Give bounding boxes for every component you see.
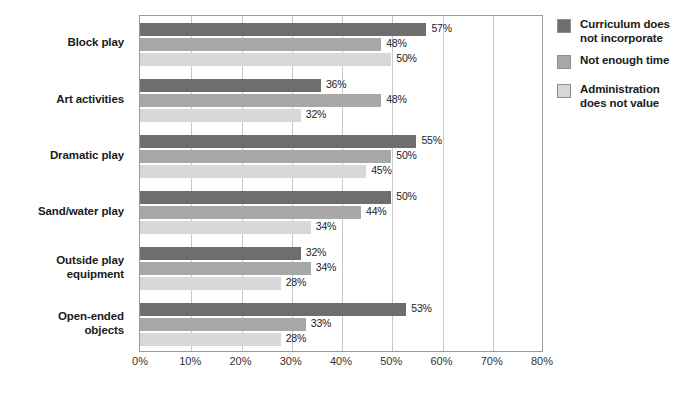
x-tick-label: 20% xyxy=(229,355,251,367)
bar-group: 53%33%28% xyxy=(140,297,542,353)
bar xyxy=(140,38,381,51)
legend-item[interactable]: Not enough time xyxy=(557,54,692,74)
bar-row: 32% xyxy=(140,247,542,260)
bar-row: 53% xyxy=(140,303,542,316)
plot-area: 57%48%50%36%48%32%55%50%45%50%44%34%32%3… xyxy=(139,15,543,352)
grouped-bar-chart: Block playArt activitiesDramatic playSan… xyxy=(0,0,698,398)
legend: Curriculum does not incorporateNot enoug… xyxy=(557,18,692,119)
bar-value-label: 53% xyxy=(411,302,431,314)
bar-value-label: 32% xyxy=(306,246,326,258)
bar-value-label: 44% xyxy=(366,205,386,217)
bar-value-label: 33% xyxy=(311,317,331,329)
bar-row: 50% xyxy=(140,53,542,66)
bar-row: 32% xyxy=(140,109,542,122)
bar-group: 32%34%28% xyxy=(140,241,542,297)
x-tick-label: 80% xyxy=(531,355,553,367)
category-label: Sand/water play xyxy=(38,205,124,219)
bar xyxy=(140,109,301,122)
bar xyxy=(140,333,281,346)
x-tick-label: 10% xyxy=(179,355,201,367)
bar-row: 50% xyxy=(140,150,542,163)
category-label: Outside play equipment xyxy=(56,254,124,281)
bar-row: 33% xyxy=(140,318,542,331)
bar-group: 55%50%45% xyxy=(140,128,542,184)
bar-value-label: 48% xyxy=(386,93,406,105)
legend-label: Curriculum does not incorporate xyxy=(580,18,692,45)
bar-row: 45% xyxy=(140,165,542,178)
x-tick-label: 30% xyxy=(280,355,302,367)
x-tick-label: 40% xyxy=(330,355,352,367)
bar xyxy=(140,221,311,234)
category-label: Dramatic play xyxy=(50,149,124,163)
bar xyxy=(140,150,391,163)
legend-item[interactable]: Curriculum does not incorporate xyxy=(557,18,692,45)
legend-swatch xyxy=(557,55,571,69)
category-axis-labels: Block playArt activitiesDramatic playSan… xyxy=(0,15,132,352)
bar-value-label: 28% xyxy=(286,276,306,288)
bar xyxy=(140,79,321,92)
bar-row: 44% xyxy=(140,206,542,219)
category-label: Open-ended objects xyxy=(58,310,124,337)
bar-value-label: 55% xyxy=(421,134,441,146)
bar xyxy=(140,277,281,290)
x-tick-label: 50% xyxy=(380,355,402,367)
legend-label: Not enough time xyxy=(580,54,692,68)
bar-value-label: 36% xyxy=(326,78,346,90)
bar xyxy=(140,303,406,316)
legend-swatch xyxy=(557,19,571,33)
bar-value-label: 34% xyxy=(316,261,336,273)
bar xyxy=(140,23,426,36)
bar-value-label: 32% xyxy=(306,108,326,120)
legend-label: Administration does not value xyxy=(580,83,692,110)
bar xyxy=(140,191,391,204)
bar-row: 48% xyxy=(140,38,542,51)
x-axis-tick-labels: 0%10%20%30%40%50%60%70%80% xyxy=(139,355,543,375)
bar xyxy=(140,247,301,260)
legend-swatch xyxy=(557,84,571,98)
x-tick-label: 70% xyxy=(481,355,503,367)
bar-value-label: 28% xyxy=(286,332,306,344)
bar-value-label: 48% xyxy=(386,37,406,49)
bar xyxy=(140,318,306,331)
bar-value-label: 50% xyxy=(396,52,416,64)
bar xyxy=(140,206,361,219)
bar-row: 55% xyxy=(140,135,542,148)
bar xyxy=(140,94,381,107)
bar-value-label: 50% xyxy=(396,149,416,161)
bar-value-label: 45% xyxy=(371,164,391,176)
category-label: Art activities xyxy=(56,93,124,107)
bar-row: 28% xyxy=(140,277,542,290)
bar-row: 36% xyxy=(140,79,542,92)
category-label: Block play xyxy=(67,36,124,50)
bar-row: 34% xyxy=(140,262,542,275)
bar xyxy=(140,53,391,66)
bar-value-label: 50% xyxy=(396,190,416,202)
x-tick-label: 60% xyxy=(430,355,452,367)
bar-groups: 57%48%50%36%48%32%55%50%45%50%44%34%32%3… xyxy=(140,16,542,351)
bar-row: 50% xyxy=(140,191,542,204)
bar-row: 57% xyxy=(140,23,542,36)
bar-group: 57%48%50% xyxy=(140,16,542,72)
bar xyxy=(140,135,416,148)
legend-item[interactable]: Administration does not value xyxy=(557,83,692,110)
bar-row: 34% xyxy=(140,221,542,234)
bar-group: 36%48%32% xyxy=(140,72,542,128)
bar-row: 48% xyxy=(140,94,542,107)
bar xyxy=(140,262,311,275)
x-tick-label: 0% xyxy=(132,355,148,367)
bar-value-label: 34% xyxy=(316,220,336,232)
bar-value-label: 57% xyxy=(431,22,451,34)
bar xyxy=(140,165,366,178)
bar-group: 50%44%34% xyxy=(140,185,542,241)
bar-row: 28% xyxy=(140,333,542,346)
